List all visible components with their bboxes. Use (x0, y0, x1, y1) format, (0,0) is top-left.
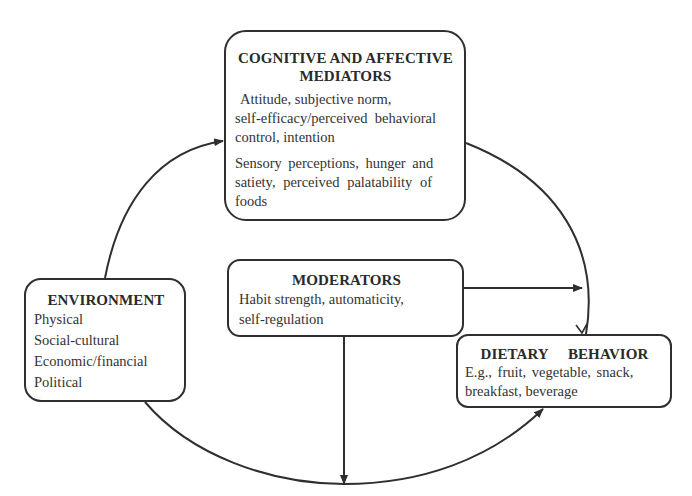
moderators-text-line: self-regulation (239, 310, 454, 329)
moderators-text-line: Habit strength, automaticity, (239, 290, 454, 309)
environment-title: ENVIRONMENT (34, 291, 178, 309)
mediators-title-line1: COGNITIVE AND AFFECTIVE (235, 49, 456, 67)
mediators-title-line2: MEDIATORS (235, 67, 456, 85)
arrow-environment-to-mediators (105, 141, 223, 278)
mediators-text-line: control, intention (235, 128, 456, 147)
dietary-behavior-box: DIETARY BEHAVIOR E.g., fruit, vegetable,… (456, 334, 672, 408)
arrow-mediators-to-behavior (466, 143, 589, 334)
mediators-text-line: Attitude, subjective norm, (235, 90, 456, 109)
environment-item: Political (34, 372, 178, 393)
arrowhead-mediators-to-behavior (576, 324, 587, 333)
moderators-box: MODERATORS Habit strength, automaticity,… (227, 259, 464, 337)
environment-item: Physical (34, 309, 178, 330)
mediators-text-line: foods (235, 192, 456, 211)
mediators-text-line: satiety, perceived palatability of (235, 173, 456, 192)
dietary-behavior-text-line: breakfast, beverage (465, 382, 664, 401)
dietary-behavior-title: DIETARY BEHAVIOR (465, 345, 664, 363)
environment-item: Economic/financial (34, 351, 178, 372)
mediators-text-line: Sensory perceptions, hunger and (235, 154, 456, 173)
cognitive-affective-mediators-box: COGNITIVE AND AFFECTIVE MEDIATORS Attitu… (224, 30, 466, 221)
environment-box: ENVIRONMENT Physical Social-cultural Eco… (24, 278, 186, 402)
mediators-text-line: self-efficacy/perceived behavioral (235, 109, 456, 128)
moderators-title: MODERATORS (239, 271, 454, 289)
environment-item: Social-cultural (34, 330, 178, 351)
dietary-behavior-text-line: E.g., fruit, vegetable, snack, (465, 363, 664, 382)
